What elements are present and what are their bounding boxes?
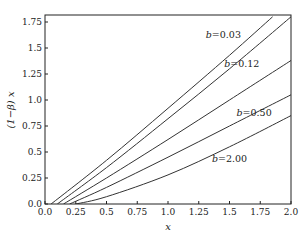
x-tick-label: 1.25	[189, 207, 209, 217]
y-tick-label: 1.75	[22, 17, 42, 27]
y-axis-ticks: 0.00.250.50.751.01.251.51.75	[22, 17, 48, 209]
curve-label: b=2.00	[212, 153, 247, 164]
curve-label: b=0.03	[206, 29, 241, 40]
chart-canvas: 0.00.250.50.751.01.251.51.752.0 0.00.250…	[0, 0, 307, 235]
x-axis-label: x	[165, 221, 171, 232]
x-tick-label: 1.5	[222, 207, 237, 217]
y-axis-label: (1−β) x	[5, 91, 16, 129]
x-tick-label: 0.75	[127, 207, 147, 217]
x-tick-label: 0.25	[66, 207, 86, 217]
x-tick-label: 1.0	[161, 207, 176, 217]
y-tick-label: 1.0	[28, 95, 43, 105]
y-tick-label: 1.5	[28, 43, 43, 53]
curve-b-0-12	[64, 61, 292, 205]
y-tick-label: 1.25	[22, 69, 42, 79]
curve-label: b=0.12	[224, 58, 259, 69]
y-tick-label: 0.75	[22, 121, 42, 131]
y-tick-label: 0.5	[28, 147, 43, 157]
curve-label: b=0.50	[236, 107, 271, 118]
x-tick-label: 0.5	[99, 207, 114, 217]
curve-b-2-00	[76, 116, 291, 204]
y-tick-label: 0.25	[22, 173, 42, 183]
x-tick-label: 1.75	[250, 207, 270, 217]
x-tick-label: 2.0	[284, 207, 299, 217]
y-tick-label: 0.0	[28, 199, 43, 209]
curve-labels: b=0.03b=0.12b=0.50b=2.00	[206, 29, 272, 165]
